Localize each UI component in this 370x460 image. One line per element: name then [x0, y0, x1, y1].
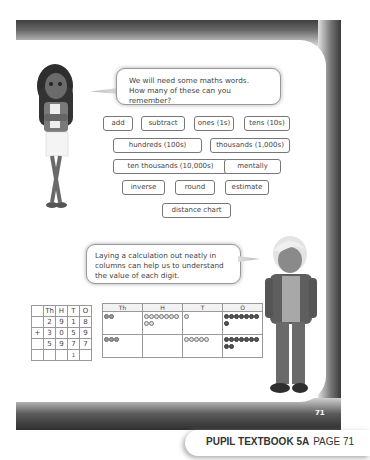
place-value-counter-icon: [109, 314, 114, 319]
header-h: H: [56, 306, 68, 317]
word-tag-ones: ones (1s): [194, 116, 234, 131]
place-value-counters-chart: Th H T O: [102, 303, 263, 358]
place-value-counter-icon: [204, 337, 209, 342]
counters-tens: [183, 335, 223, 358]
word-tag-round: round: [175, 180, 215, 195]
word-tag-hundreds: hundreds (100s): [113, 138, 202, 153]
word-tag-ten-thousands: ten thousands (10,000s): [113, 159, 228, 174]
girl-character-illustration: [30, 62, 80, 218]
counters-ones: [223, 335, 263, 358]
page-frame-bottom: [16, 398, 341, 430]
book-title: PUPIL TEXTBOOK 5A: [206, 436, 309, 447]
header-h: H: [143, 304, 183, 312]
bubble-text-line: the value of each digit.: [95, 271, 232, 281]
header-o: O: [80, 306, 92, 317]
word-tag-subtract: subtract: [141, 116, 185, 131]
header-o: O: [223, 304, 263, 312]
place-value-counter-icon: [229, 344, 234, 349]
counters-thousands: [103, 335, 143, 358]
word-tag-distance-chart: distance chart: [162, 203, 231, 218]
counters-ones: [223, 312, 263, 335]
bubble-text-line: How many of these can you remember?: [129, 86, 268, 106]
word-tag-thousands: thousands (1,000s): [210, 138, 290, 153]
header-th: Th: [44, 306, 56, 317]
header-th: Th: [103, 304, 143, 312]
bubble-text-line: columns can help us to understand: [95, 261, 232, 271]
bubble-text-line: Laying a calculation out neatly in: [95, 251, 232, 261]
speech-bubble-top: We will need some maths words. How many …: [116, 68, 281, 105]
counter-row-1: [103, 312, 263, 335]
speech-bubble-bottom: Laying a calculation out neatly in colum…: [86, 244, 241, 284]
carry-digit: 1: [68, 350, 80, 361]
counters-thousands: [103, 312, 143, 335]
place-value-counter-icon: [224, 321, 229, 326]
place-value-counter-icon: [184, 314, 189, 319]
chart-header-row: Th H T O: [103, 304, 263, 312]
addend-row-2: + 3 0 5 9: [32, 328, 92, 339]
word-tag-inverse: inverse: [122, 180, 165, 195]
plus-sign: +: [32, 328, 44, 339]
place-value-counter-icon: [254, 337, 259, 342]
addend-row-1: 2 9 1 8: [32, 317, 92, 328]
word-tag-mentally: mentally: [224, 159, 281, 174]
word-tag-estimate: estimate: [225, 180, 269, 195]
counter-row-2: [103, 335, 263, 358]
place-value-counter-icon: [254, 314, 259, 319]
word-tag-tens: tens (10s): [244, 116, 290, 131]
result-row: 5 9 7 7: [32, 339, 92, 350]
counters-hundreds: [143, 335, 183, 358]
place-value-counter-icon: [114, 337, 119, 342]
word-tag-add: add: [103, 116, 133, 131]
carry-row: 1: [32, 350, 92, 361]
grid-header-row: Th H T O: [32, 306, 92, 317]
boy-character-illustration: [260, 232, 322, 400]
page-number: 71: [315, 409, 325, 417]
place-value-counter-icon: [149, 321, 154, 326]
page-label: PAGE 71: [313, 436, 354, 447]
header-t: T: [183, 304, 223, 312]
counters-hundreds: [143, 312, 183, 335]
column-addition-grid: Th H T O 2 9 1 8 + 3 0 5 9 5 9 7 7 1: [31, 305, 92, 361]
counters-tens: [183, 312, 223, 335]
footer-label: PUPIL TEXTBOOK 5APAGE 71: [185, 430, 370, 456]
header-t: T: [68, 306, 80, 317]
bubble-text-line: We will need some maths words.: [129, 76, 268, 86]
place-value-counter-icon: [174, 314, 179, 319]
